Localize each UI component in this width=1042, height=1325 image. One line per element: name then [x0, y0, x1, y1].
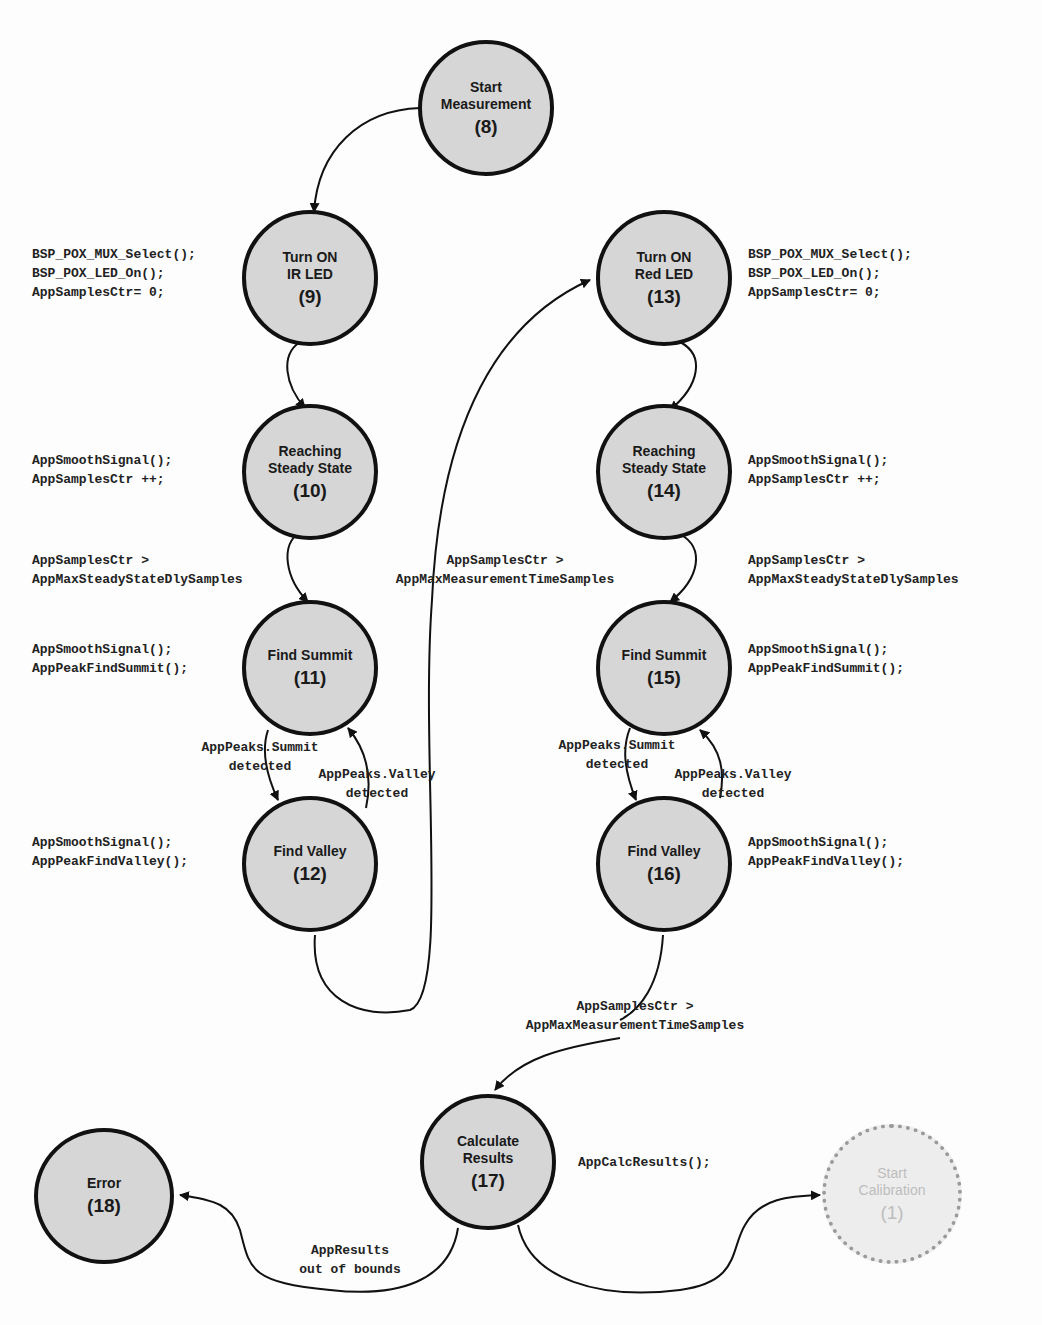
transition-label-14-15: AppSamplesCtr > AppMaxSteadyStateDlySamp… [748, 551, 959, 589]
state-find-summit-red[interactable]: Find Summit (15) [596, 600, 732, 736]
action-code-state-14: AppSmoothSignal(); AppSamplesCtr ++; [748, 451, 888, 489]
state-find-summit-ir[interactable]: Find Summit (11) [242, 600, 378, 736]
state-label: Find Valley [627, 843, 700, 860]
state-label: Turn ON Red LED [635, 249, 693, 283]
edge-14-to-15 [670, 534, 696, 602]
state-calculate-results[interactable]: Calculate Results (17) [420, 1094, 556, 1230]
state-number: (14) [647, 480, 681, 502]
state-number: (16) [647, 863, 681, 885]
state-number: (8) [474, 116, 497, 138]
state-turn-on-ir-led[interactable]: Turn ON IR LED (9) [242, 210, 378, 346]
action-code-state-15: AppSmoothSignal(); AppPeakFindSummit(); [748, 640, 904, 678]
state-number: (10) [293, 480, 327, 502]
edge-16-to-17-tail [495, 1038, 620, 1090]
action-code-state-12: AppSmoothSignal(); AppPeakFindValley(); [32, 833, 188, 871]
state-label: Find Valley [273, 843, 346, 860]
transition-label-17-18: AppResults out of bounds [288, 1241, 412, 1279]
transition-label-10-11: AppSamplesCtr > AppMaxSteadyStateDlySamp… [32, 551, 243, 589]
state-reaching-steady-state-red[interactable]: Reaching Steady State (14) [596, 404, 732, 540]
state-label: Turn ON IR LED [283, 249, 338, 283]
edge-17-to-1 [518, 1195, 820, 1292]
state-start-calibration[interactable]: Start Calibration (1) [822, 1124, 962, 1264]
action-code-state-10: AppSmoothSignal(); AppSamplesCtr ++; [32, 451, 172, 489]
state-start-measurement[interactable]: Start Measurement (8) [418, 40, 554, 176]
state-label: Start Calibration [859, 1165, 926, 1199]
action-code-state-17: AppCalcResults(); [578, 1153, 711, 1172]
state-number: (18) [87, 1195, 121, 1217]
state-number: (15) [647, 667, 681, 689]
state-number: (12) [293, 863, 327, 885]
action-code-state-13: BSP_POX_MUX_Select(); BSP_POX_LED_On(); … [748, 245, 912, 302]
state-number: (13) [647, 286, 681, 308]
edge-8-to-9 [314, 108, 420, 212]
edge-9-to-10 [287, 342, 305, 408]
state-error[interactable]: Error (18) [34, 1128, 174, 1264]
transition-label-16-15: AppPeaks.Valley detected [662, 765, 804, 803]
state-label: Start Measurement [441, 79, 531, 113]
state-label: Error [87, 1175, 121, 1192]
state-label: Reaching Steady State [268, 443, 352, 477]
state-label: Calculate Results [457, 1133, 519, 1167]
transition-label-16-17: AppSamplesCtr > AppMaxMeasurementTimeSam… [505, 997, 765, 1035]
state-number: (11) [294, 667, 327, 689]
state-label: Find Summit [268, 647, 353, 664]
state-label: Reaching Steady State [622, 443, 706, 477]
state-reaching-steady-state-ir[interactable]: Reaching Steady State (10) [242, 404, 378, 540]
edge-13-to-14 [670, 342, 696, 410]
state-number: (17) [471, 1170, 505, 1192]
edge-10-to-11 [288, 532, 308, 602]
state-turn-on-red-led[interactable]: Turn ON Red LED (13) [596, 210, 732, 346]
transition-label-12-13: AppSamplesCtr > AppMaxMeasurementTimeSam… [375, 551, 635, 589]
state-number: (9) [298, 286, 321, 308]
transition-label-12-11: AppPeaks.Valley detected [306, 765, 448, 803]
state-diagram: Start Measurement (8) Turn ON IR LED (9)… [0, 0, 1042, 1325]
state-label: Find Summit [622, 647, 707, 664]
state-find-valley-red[interactable]: Find Valley (16) [596, 796, 732, 932]
state-number: (1) [880, 1202, 903, 1224]
action-code-state-9: BSP_POX_MUX_Select(); BSP_POX_LED_On(); … [32, 245, 196, 302]
action-code-state-16: AppSmoothSignal(); AppPeakFindValley(); [748, 833, 904, 871]
action-code-state-11: AppSmoothSignal(); AppPeakFindSummit(); [32, 640, 188, 678]
state-find-valley-ir[interactable]: Find Valley (12) [242, 796, 378, 932]
